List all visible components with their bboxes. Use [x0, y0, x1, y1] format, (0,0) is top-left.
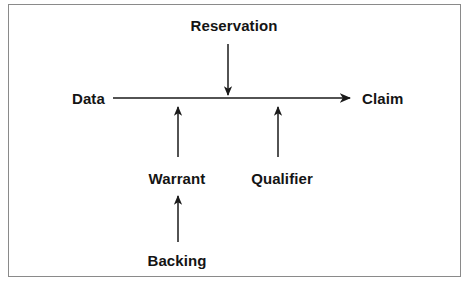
- node-warrant: Warrant: [149, 171, 206, 186]
- node-claim: Claim: [362, 91, 403, 106]
- node-data: Data: [72, 91, 105, 106]
- node-qualifier: Qualifier: [251, 171, 313, 186]
- node-backing: Backing: [147, 253, 206, 268]
- toulmin-argument-diagram: Reservation Data Claim Warrant Qualifier…: [0, 0, 469, 282]
- node-reservation: Reservation: [191, 18, 278, 33]
- diagram-connectors: [0, 0, 469, 282]
